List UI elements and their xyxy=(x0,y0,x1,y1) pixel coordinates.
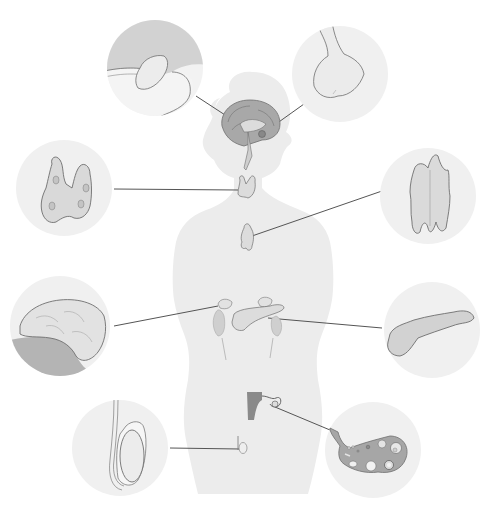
callout-pituitary[interactable] xyxy=(292,22,388,122)
endocrine-diagram xyxy=(0,0,494,518)
callout-testis[interactable] xyxy=(72,400,168,496)
callout-hypothalamus[interactable] xyxy=(100,20,210,130)
callout-ovary[interactable] xyxy=(325,402,421,498)
callout-adrenal[interactable] xyxy=(10,276,110,380)
adrenal-small-icon xyxy=(218,299,232,309)
leader-line-thyroid xyxy=(114,189,238,190)
callout-thymus[interactable] xyxy=(380,148,476,244)
callout-pancreas[interactable] xyxy=(384,282,480,378)
callout-thyroid[interactable] xyxy=(16,140,112,236)
